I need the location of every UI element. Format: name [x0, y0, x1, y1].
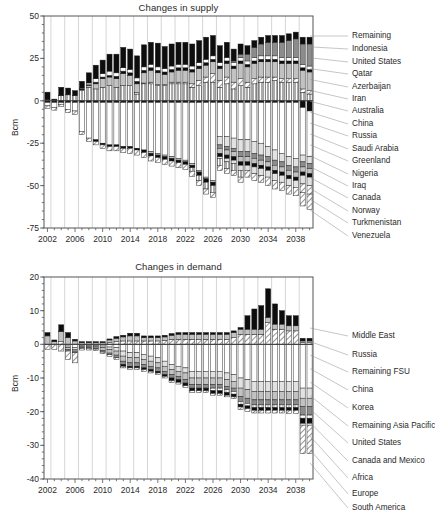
y-tick-label: -10	[8, 373, 39, 383]
chart-panel-supply: Changes in supply Bcm -75-50-2502550 200…	[0, 0, 423, 258]
legend-label-saudi-arabia: Saudi Arabia	[352, 145, 398, 153]
legend-label-norway: Norway	[352, 207, 380, 215]
legend-label-remaining-asia-pacific: Remaining Asia Pacific	[352, 422, 435, 430]
chart-panel-demand: Changes in demand Bcm -40-30-20-1001020 …	[0, 258, 423, 518]
legend-label-venezuela: Venezuela	[352, 232, 390, 240]
y-tick-label: -20	[8, 407, 39, 417]
legend-label-korea: Korea	[352, 404, 374, 412]
legend-label-qatar: Qatar	[352, 70, 372, 78]
legend-label-europe: Europe	[352, 490, 378, 498]
x-tick-label: 2038	[280, 234, 312, 244]
legend-label-south-america: South America	[352, 504, 405, 512]
legend-label-africa: Africa	[352, 474, 373, 482]
legend-label-iraq: Iraq	[352, 182, 366, 190]
legend-label-remaining-fsu: Remaining FSU	[352, 368, 410, 376]
legend-label-china: China	[352, 120, 373, 128]
legend-label-azerbaijan: Azerbaijan	[352, 83, 391, 91]
legend-label-canada: Canada	[352, 194, 381, 202]
legend-label-china: China	[352, 386, 373, 394]
y-tick-label: -30	[8, 440, 39, 450]
y-tick-label: -75	[8, 223, 39, 233]
legend-label-turkmenistan: Turkmenistan	[352, 219, 401, 227]
y-tick-label: 20	[8, 272, 39, 282]
legend-label-russia: Russia	[352, 132, 377, 140]
legend-label-middle-east: Middle East	[352, 332, 395, 340]
legend-label-russia: Russia	[352, 351, 377, 359]
legend-label-greenland: Greenland	[352, 157, 390, 165]
y-tick-label: 0	[8, 96, 39, 106]
legend-label-indonesia: Indonesia	[352, 45, 388, 53]
legend-label-iran: Iran	[352, 95, 366, 103]
y-tick-label: 25	[8, 53, 39, 63]
y-tick-label: 0	[8, 339, 39, 349]
y-tick-label: -40	[8, 474, 39, 484]
legend-label-united-states: United States	[352, 439, 401, 447]
y-tick-label: -50	[8, 181, 39, 191]
y-tick-label: 50	[8, 11, 39, 21]
legend-label-remaining: Remaining	[352, 32, 391, 40]
y-tick-label: 10	[8, 306, 39, 316]
legend-label-nigeria: Nigeria	[352, 170, 378, 178]
legend-label-canada-and-mexico: Canada and Mexico	[352, 457, 425, 465]
x-tick-label: 2038	[280, 485, 312, 495]
y-tick-label: -25	[8, 138, 39, 148]
legend-label-australia: Australia	[352, 107, 384, 115]
legend-label-united-states: United States	[352, 58, 401, 66]
